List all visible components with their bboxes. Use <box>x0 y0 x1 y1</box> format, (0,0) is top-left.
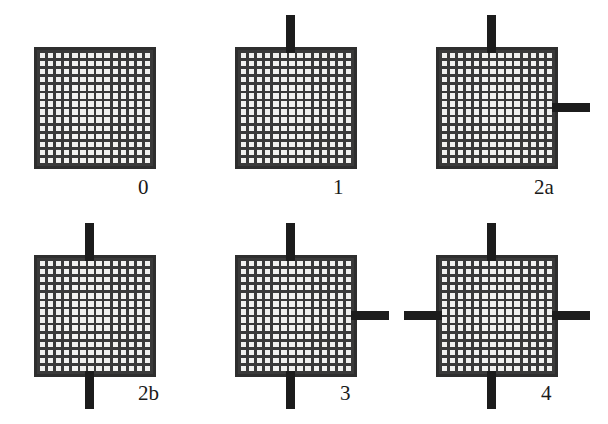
figure-canvas: 012a2b34 <box>0 0 608 424</box>
mesh-square <box>235 47 357 169</box>
lead-stub-top <box>286 15 295 53</box>
lead-stub-bottom <box>286 371 295 409</box>
lead-stub-right <box>552 103 590 112</box>
panel-label: 4 <box>541 383 552 404</box>
lead-stub-top <box>286 223 295 261</box>
mesh-square <box>34 255 156 377</box>
lead-stub-bottom <box>85 371 94 409</box>
lead-stub-bottom <box>487 371 496 409</box>
lead-stub-top <box>85 223 94 261</box>
lead-stub-top <box>487 15 496 53</box>
mesh-square <box>436 255 558 377</box>
mesh-square <box>235 255 357 377</box>
mesh-square <box>34 47 156 169</box>
lead-stub-right <box>552 311 590 320</box>
lead-stub-right <box>351 311 389 320</box>
mesh-square <box>436 47 558 169</box>
lead-stub-top <box>487 223 496 261</box>
lead-stub-left <box>404 311 442 320</box>
